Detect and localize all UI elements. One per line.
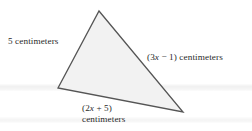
label-right-side-suffix: − 1) centimeters — [159, 52, 223, 62]
label-bottom-prefix: (2 — [82, 103, 90, 113]
label-bottom-side: (2x + 5) centimeters — [82, 103, 156, 124]
label-bottom-unit: centimeters — [82, 114, 156, 125]
label-right-side: (3x − 1) centimeters — [147, 52, 223, 63]
geometry-figure: 5 centimeters (3x − 1) centimeters (2x +… — [0, 0, 252, 131]
label-left-side: 5 centimeters — [8, 36, 59, 47]
label-bottom-expression: (2x + 5) — [82, 103, 156, 114]
label-bottom-suffix: + 5) — [94, 103, 112, 113]
label-right-side-prefix: (3 — [147, 52, 155, 62]
